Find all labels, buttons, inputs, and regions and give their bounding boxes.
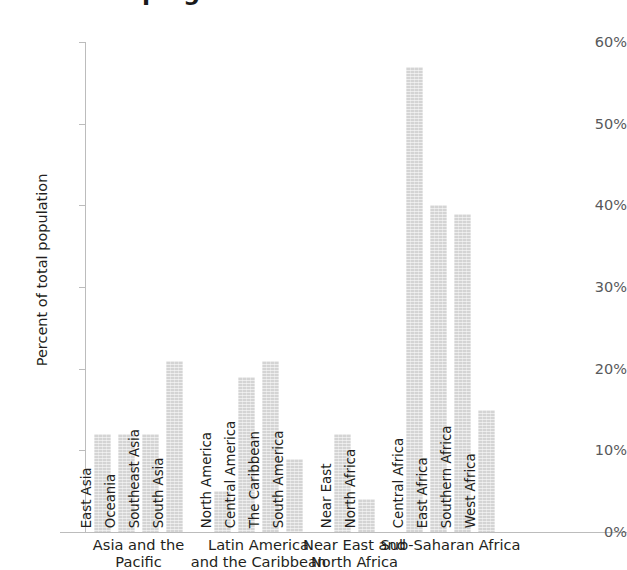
- y-axis-tick: [79, 287, 85, 288]
- bar-label: North America: [200, 432, 213, 528]
- bar-label: West Africa: [464, 453, 477, 528]
- bar-label: Near East: [320, 463, 333, 528]
- bar-label: East Africa: [416, 457, 429, 528]
- bar: [166, 361, 183, 533]
- group-label-line: North Africa: [255, 553, 455, 570]
- x-axis-baseline: [60, 532, 627, 533]
- bar-label: Oceania: [104, 474, 117, 528]
- group-label-line: Sub-Saharan Africa: [351, 536, 551, 553]
- bar-label: The Caribbean: [248, 431, 261, 528]
- y-axis-title: Percent of total population: [34, 155, 50, 385]
- bar-label: East Asia: [80, 467, 93, 528]
- y-axis-tick: [79, 369, 85, 370]
- y-axis-tick: [79, 124, 85, 125]
- bar-label: Central Africa: [392, 437, 405, 528]
- y-axis-tick: [79, 42, 85, 43]
- chart-title: the Developing World: [0, 0, 627, 12]
- bar-label: North Africa: [344, 449, 357, 528]
- bar: [358, 499, 375, 532]
- y-axis-tick: [79, 450, 85, 451]
- bar-label: Southeast Asia: [128, 429, 141, 528]
- y-axis-tick: [79, 205, 85, 206]
- group-label: Sub-Saharan Africa: [351, 536, 551, 553]
- bar: [286, 459, 303, 533]
- bar-label: South America: [272, 430, 285, 528]
- bar-label: Central America: [224, 421, 237, 529]
- bar-label: Southern Africa: [440, 425, 453, 528]
- bar-label: South Asia: [152, 457, 165, 528]
- bar: [478, 410, 495, 533]
- y-axis-tick: [79, 532, 85, 533]
